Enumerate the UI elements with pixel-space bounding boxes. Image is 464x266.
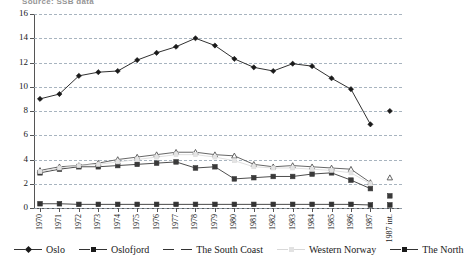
plot-area: 0246810121416 19701971197219731974197519… [34, 14, 402, 208]
x-tick-label: 1978 [191, 214, 199, 230]
legend-line [163, 249, 174, 250]
series-layer [34, 14, 402, 208]
data-point [77, 202, 82, 207]
data-point [115, 68, 120, 73]
legend-item-western-norway[interactable]: Western Norway [277, 244, 376, 255]
legend-line [31, 249, 42, 250]
data-point [349, 202, 354, 207]
data-point [290, 202, 295, 207]
data-point [154, 50, 159, 55]
x-tick [195, 208, 196, 212]
series-the-north [38, 201, 373, 207]
x-tick [40, 208, 41, 212]
data-point [252, 165, 256, 169]
legend-marker-icon [91, 247, 96, 252]
legend-label: The North [422, 244, 463, 255]
data-point [271, 68, 276, 73]
data-point [310, 64, 315, 69]
gridline [34, 208, 402, 209]
x-tick [370, 208, 371, 212]
data-point [290, 174, 295, 179]
legend-marker-icon [289, 247, 294, 252]
data-point [368, 182, 372, 186]
chart-legend: OsloOslofjordThe South CoastWestern Norw… [0, 239, 433, 259]
data-point [330, 168, 334, 172]
legend-marker-icon [175, 247, 181, 252]
legend-label: Western Norway [309, 244, 376, 255]
legend-line [96, 249, 107, 250]
y-tick-label: 10 [4, 82, 28, 91]
data-point [271, 166, 275, 170]
x-tick-label: 1985 [328, 214, 336, 230]
y-tick-label: 0 [4, 203, 28, 212]
x-tick [157, 208, 158, 212]
data-point [135, 202, 140, 207]
legend-label: The South Coast [196, 244, 263, 255]
data-point [135, 158, 139, 162]
legend-item-oslofjord[interactable]: Oslofjord [79, 244, 149, 255]
x-tick-label: 1986 [347, 214, 355, 230]
data-point [271, 202, 276, 207]
data-point [155, 155, 159, 159]
series-western-norway [38, 153, 372, 186]
x-tick [351, 208, 352, 212]
x-tick-label: 1983 [289, 214, 297, 230]
x-tick [293, 208, 294, 212]
legend-line [277, 249, 288, 250]
x-tick-label: 1977 [172, 214, 180, 230]
data-point [387, 108, 392, 113]
data-point [213, 164, 218, 169]
y-tick-label: 8 [4, 106, 28, 115]
x-tick [137, 208, 138, 212]
x-tick-label: 1971 [55, 214, 63, 230]
x-tick [118, 208, 119, 212]
data-point [349, 178, 354, 183]
legend-label: Oslofjord [111, 244, 149, 255]
source-note: Source: SSB data [22, 0, 142, 6]
data-point [232, 202, 237, 207]
legend-item-oslo[interactable]: Oslo [14, 244, 65, 255]
x-tick-label: 1975 [133, 214, 141, 230]
data-point [310, 172, 315, 177]
legend-line [407, 249, 418, 250]
data-point [213, 202, 218, 207]
data-point [96, 162, 100, 166]
x-tick [79, 208, 80, 212]
data-point [232, 56, 237, 61]
data-point [38, 170, 42, 174]
legend-line [14, 249, 25, 250]
data-point [96, 202, 101, 207]
data-point [193, 36, 198, 41]
legend-item-the-north[interactable]: The North [390, 244, 463, 255]
data-point [388, 203, 393, 208]
data-point [348, 87, 353, 92]
y-tick-label: 2 [4, 179, 28, 188]
legend-item-the-south-coast[interactable]: The South Coast [163, 244, 263, 255]
data-point [368, 186, 373, 191]
x-tick-label: 1984 [308, 214, 316, 230]
data-point [174, 160, 179, 165]
data-point [251, 202, 256, 207]
y-tick-label: 4 [4, 155, 28, 164]
x-tick-label: 1976 [153, 214, 161, 230]
legend-line [390, 249, 401, 250]
data-point [57, 166, 61, 170]
legend-marker-icon [25, 245, 32, 252]
data-point [38, 201, 43, 206]
data-point [310, 202, 315, 207]
data-point [135, 162, 140, 167]
x-tick [215, 208, 216, 212]
x-tick [332, 208, 333, 212]
x-tick-label: 1982 [269, 214, 277, 230]
data-point [57, 201, 62, 206]
data-point [368, 122, 373, 127]
data-point [310, 167, 314, 171]
x-tick [98, 208, 99, 212]
data-point [388, 194, 393, 199]
data-point [213, 155, 217, 159]
y-tick-label: 14 [4, 33, 28, 42]
data-point [37, 96, 42, 101]
data-point [193, 153, 197, 157]
y-tick-label: 16 [4, 9, 28, 18]
